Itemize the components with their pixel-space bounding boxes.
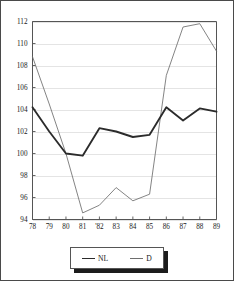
legend-entry-d: D <box>130 254 152 263</box>
chart-figure: 949698100102104106108110112 78798081'828… <box>0 0 234 281</box>
legend-label-nl: NL <box>98 254 109 263</box>
x-tick-label: 84 <box>129 223 137 231</box>
x-tick-label: 89 <box>213 223 221 231</box>
x-tick-label: 79 <box>46 223 54 231</box>
x-tick-label: 80 <box>62 223 70 231</box>
x-tick-label: 78 <box>29 223 37 231</box>
y-tick-label: 106 <box>17 84 28 92</box>
legend-swatch-d-icon <box>130 258 143 259</box>
x-tick-label: '82 <box>95 223 104 231</box>
series-line-nl <box>33 107 217 155</box>
legend-entry-nl: NL <box>82 254 109 263</box>
y-tick-label: 96 <box>20 194 28 202</box>
y-tick-label: 100 <box>17 150 28 158</box>
y-tick-label: 102 <box>17 128 28 136</box>
y-tick-label: 94 <box>20 216 28 224</box>
x-tick-label: 81 <box>79 223 87 231</box>
y-tick-label: 98 <box>20 172 28 180</box>
legend-swatch-nl-icon <box>82 258 95 259</box>
x-tick-label: 83 <box>113 223 121 231</box>
y-tick-label: 112 <box>17 18 28 26</box>
x-axis-ticks: 78798081'8283848586878889 <box>29 217 221 232</box>
y-tick-label: 110 <box>17 40 28 48</box>
x-tick-label: 86 <box>163 223 171 231</box>
x-tick-label: 87 <box>179 223 187 231</box>
legend-label-d: D <box>146 254 152 263</box>
plot-frame <box>33 22 217 220</box>
series-line-d <box>33 24 217 213</box>
y-tick-label: 104 <box>17 106 28 114</box>
x-tick-label: 85 <box>146 223 154 231</box>
chart-legend: NL D <box>70 247 164 269</box>
y-tick-label: 108 <box>17 62 28 70</box>
gridlines <box>33 23 217 221</box>
x-tick-label: 88 <box>196 223 204 231</box>
plot-area: 949698100102104106108110112 78798081'828… <box>1 1 234 237</box>
line-chart-svg: 949698100102104106108110112 78798081'828… <box>1 1 234 237</box>
legend-box: NL D <box>70 247 164 269</box>
